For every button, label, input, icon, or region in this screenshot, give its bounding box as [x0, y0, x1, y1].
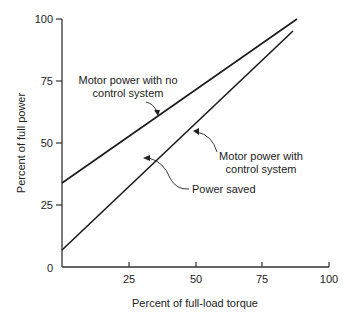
arrow-with-control — [197, 132, 217, 152]
arrowhead-with-control — [193, 128, 199, 135]
annotation-with-control-line2: control system — [226, 163, 297, 175]
annotation-with-control-line1: Motor power with — [219, 150, 303, 162]
y-axis: 100 75 50 25 0 — [35, 13, 62, 274]
annotation-power-saved: Power saved — [192, 183, 256, 195]
y-tick-100: 100 — [35, 13, 53, 25]
arrowhead-power-saved — [143, 155, 150, 161]
y-tick-0: 0 — [47, 262, 53, 274]
y-tick-75: 75 — [41, 75, 53, 87]
x-tick-100: 100 — [320, 273, 338, 285]
chart: 100 75 50 25 0 25 50 75 100 Percent of f… — [0, 0, 355, 317]
y-axis-title: Percent of full power — [15, 93, 27, 194]
x-tick-75: 75 — [256, 273, 268, 285]
x-axis-title: Percent of full-load torque — [132, 297, 258, 309]
annotation-no-control-line2: control system — [93, 87, 164, 99]
x-axis: 25 50 75 100 — [62, 262, 338, 285]
x-tick-50: 50 — [190, 273, 202, 285]
line-with-control — [62, 31, 293, 250]
x-tick-25: 25 — [123, 273, 135, 285]
y-tick-25: 25 — [41, 199, 53, 211]
y-tick-50: 50 — [41, 137, 53, 149]
annotation-no-control-line1: Motor power with no — [78, 74, 177, 86]
